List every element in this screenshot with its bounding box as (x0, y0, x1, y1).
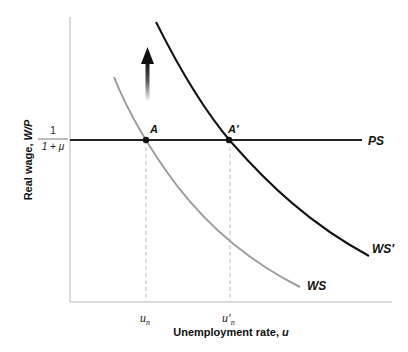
point-a-label: A (149, 123, 158, 135)
ws-curve (114, 77, 300, 287)
y-tick-numerator: 1 (50, 125, 56, 136)
point-a-prime (226, 137, 232, 143)
ps-label: PS (368, 134, 384, 148)
y-tick-denominator: 1 + μ (42, 141, 65, 152)
ws-prime-label: WS′ (372, 242, 395, 256)
up-arrow-icon (141, 47, 154, 102)
x-axis-title: Unemployment rate, u (173, 326, 289, 338)
wage-price-setting-diagram: A A′ PS WS′ WS 1 1 + μ un u′n Unemployme… (0, 0, 408, 352)
y-tick-markup: 1 1 + μ (38, 125, 68, 152)
y-axis-title: Real wage, W/P (22, 119, 34, 200)
point-a-prime-label: A′ (227, 123, 240, 135)
x-tick-un: un (140, 311, 150, 327)
point-a (143, 137, 149, 143)
ws-label: WS (307, 279, 326, 293)
x-tick-un-prime: u′n (222, 311, 235, 327)
